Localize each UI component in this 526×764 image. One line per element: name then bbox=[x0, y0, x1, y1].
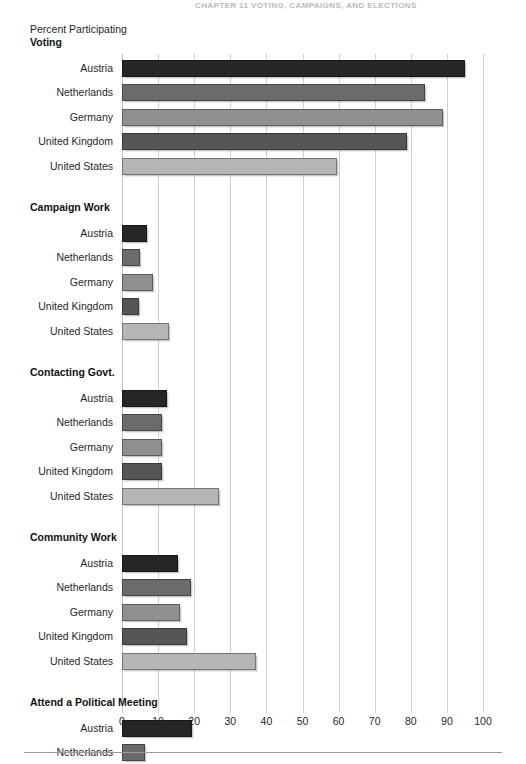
bar bbox=[122, 579, 191, 596]
bar bbox=[122, 225, 147, 242]
chart-bar-row: Netherlands bbox=[0, 412, 526, 433]
bar bbox=[122, 555, 178, 572]
chart-bar-row: Germany bbox=[0, 437, 526, 458]
bar-category-label: Germany bbox=[0, 437, 113, 458]
chart-bar-row: United Kingdom bbox=[0, 626, 526, 647]
bar-category-label: United Kingdom bbox=[0, 131, 113, 152]
x-tick-label: 50 bbox=[297, 715, 309, 727]
bar bbox=[122, 84, 425, 101]
x-tick-label: 60 bbox=[333, 715, 345, 727]
group-title: Community Work bbox=[30, 531, 117, 543]
x-tick-label: 90 bbox=[441, 715, 453, 727]
chart-bar-row: United Kingdom bbox=[0, 131, 526, 152]
bar bbox=[122, 628, 187, 645]
bar-category-label: Netherlands bbox=[0, 577, 113, 598]
chart-bar-row: United States bbox=[0, 486, 526, 507]
bar-category-label: United Kingdom bbox=[0, 296, 113, 317]
bar-category-label: Germany bbox=[0, 602, 113, 623]
bar bbox=[122, 249, 140, 266]
bar-category-label: United Kingdom bbox=[0, 626, 113, 647]
chart-bar-row: United States bbox=[0, 156, 526, 177]
chart-bar-row: Germany bbox=[0, 272, 526, 293]
chart-bar-row: Austria bbox=[0, 223, 526, 244]
bar bbox=[122, 158, 337, 175]
chart-bar-row: Germany bbox=[0, 602, 526, 623]
bar-category-label: Germany bbox=[0, 272, 113, 293]
bar bbox=[122, 414, 162, 431]
bar bbox=[122, 323, 169, 340]
bar bbox=[122, 604, 180, 621]
bar bbox=[122, 274, 153, 291]
bar-category-label: Germany bbox=[0, 107, 113, 128]
bar bbox=[122, 488, 219, 505]
x-tick-label: 10 bbox=[152, 715, 164, 727]
chart-bar-row: United States bbox=[0, 651, 526, 672]
chart-bar-row: Netherlands bbox=[0, 82, 526, 103]
chart-bar-row: United States bbox=[0, 321, 526, 342]
bar-category-label: Netherlands bbox=[0, 82, 113, 103]
bar-category-label: Austria bbox=[0, 553, 113, 574]
bar-category-label: United Kingdom bbox=[0, 461, 113, 482]
chart-bar-row: Austria bbox=[0, 553, 526, 574]
chart-bar-row: Netherlands bbox=[0, 247, 526, 268]
group-title: Campaign Work bbox=[30, 201, 110, 213]
bar bbox=[122, 439, 162, 456]
x-tick-label: 20 bbox=[188, 715, 200, 727]
x-tick-label: 70 bbox=[369, 715, 381, 727]
x-tick-label: 40 bbox=[261, 715, 273, 727]
bar bbox=[122, 109, 443, 126]
x-axis-tick-labels: 0102030405060708090100 bbox=[0, 715, 526, 737]
bar-category-label: Austria bbox=[0, 58, 113, 79]
group-title: Attend a Political Meeting bbox=[30, 696, 158, 708]
bar-chart-figure: Percent Participating VotingAustriaNethe… bbox=[0, 18, 526, 738]
running-page-header: CHAPTER 11 VOTING, CAMPAIGNS, AND ELECTI… bbox=[195, 0, 526, 9]
bar-category-label: United States bbox=[0, 321, 113, 342]
x-tick-label: 30 bbox=[224, 715, 236, 727]
chart-bar-row: Germany bbox=[0, 107, 526, 128]
bar bbox=[122, 60, 465, 77]
x-tick-label: 80 bbox=[405, 715, 417, 727]
bar-category-label: Austria bbox=[0, 388, 113, 409]
x-tick-label: 100 bbox=[474, 715, 492, 727]
bar-category-label: Austria bbox=[0, 223, 113, 244]
group-title: Contacting Govt. bbox=[30, 366, 115, 378]
bar-category-label: Netherlands bbox=[0, 247, 113, 268]
bar-category-label: United States bbox=[0, 486, 113, 507]
bar-category-label: United States bbox=[0, 156, 113, 177]
x-tick-label: 0 bbox=[119, 715, 125, 727]
bar-category-label: Netherlands bbox=[0, 412, 113, 433]
bar bbox=[122, 298, 139, 315]
chart-bar-row: Netherlands bbox=[0, 577, 526, 598]
page-bottom-rule bbox=[24, 752, 502, 753]
bar bbox=[122, 653, 256, 670]
bar bbox=[122, 390, 167, 407]
chart-bar-row: Austria bbox=[0, 58, 526, 79]
bar-category-label: United States bbox=[0, 651, 113, 672]
chart-bar-row: United Kingdom bbox=[0, 296, 526, 317]
chart-axis-title: Percent Participating bbox=[30, 23, 127, 35]
bar bbox=[122, 463, 162, 480]
chart-bar-row: Austria bbox=[0, 388, 526, 409]
bar bbox=[122, 133, 407, 150]
chart-bar-row: United Kingdom bbox=[0, 461, 526, 482]
group-title: Voting bbox=[30, 36, 62, 48]
